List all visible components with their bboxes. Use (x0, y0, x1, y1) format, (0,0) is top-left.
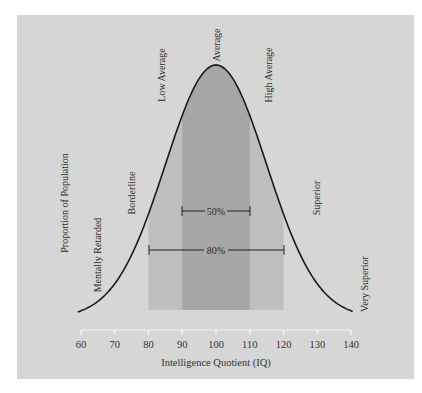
x-axis-title: Intelligence Quotient (IQ) (161, 357, 271, 369)
x-tick-label: 120 (276, 339, 292, 350)
x-tick-label: 60 (76, 339, 87, 350)
label-superior: Superior (311, 180, 322, 215)
label-very-superior: Very Superior (359, 255, 370, 311)
iq-distribution-chart: 50% 80% 60708090100110120130140 Intellig… (0, 0, 422, 393)
span-50-label: 50% (207, 206, 225, 217)
x-tick-label: 100 (208, 339, 224, 350)
y-axis-title: Proportion of Population (59, 153, 70, 252)
x-tick-label: 90 (177, 339, 188, 350)
x-axis-tick-labels: 60708090100110120130140 (76, 339, 359, 350)
label-average: Average (211, 28, 222, 62)
x-tick-label: 140 (343, 339, 359, 350)
x-tick-label: 80 (143, 339, 154, 350)
label-borderline: Borderline (126, 171, 137, 214)
span-80-label: 80% (207, 245, 225, 256)
band-50pct (182, 65, 250, 310)
label-mentally-retarded: Mentally Retarded (92, 218, 103, 293)
label-high-average: High Average (263, 47, 274, 103)
x-tick-label: 70 (110, 339, 121, 350)
x-tick-label: 110 (242, 339, 257, 350)
label-low-average: Low Average (156, 48, 167, 102)
x-tick-label: 130 (309, 339, 325, 350)
